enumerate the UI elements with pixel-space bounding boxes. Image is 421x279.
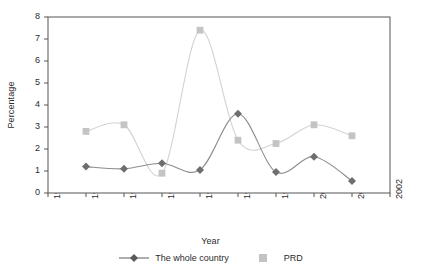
data-point-marker — [235, 137, 242, 144]
legend-item-prd[interactable]: PRD — [247, 252, 303, 264]
data-point-marker — [197, 27, 204, 34]
chart-legend: The whole countryPRD — [0, 252, 421, 264]
data-point-marker — [159, 170, 166, 177]
data-point-marker — [121, 121, 128, 128]
chart-container: Percentage 012345678 1993199419951996199… — [0, 0, 421, 279]
square-marker-icon — [247, 252, 279, 264]
legend-item-whole-country[interactable]: The whole country — [118, 252, 229, 264]
data-point-marker — [349, 132, 356, 139]
data-point-marker — [311, 121, 318, 128]
legend-label: PRD — [284, 254, 303, 263]
x-axis-title-wrapper: Year — [0, 230, 421, 248]
legend-label: The whole country — [155, 254, 229, 263]
data-point-marker — [273, 140, 280, 147]
x-axis-title: Year — [201, 236, 220, 246]
data-point-marker — [83, 128, 90, 135]
diamond-marker-icon — [118, 252, 150, 264]
plot-frame — [48, 17, 390, 193]
